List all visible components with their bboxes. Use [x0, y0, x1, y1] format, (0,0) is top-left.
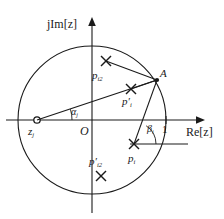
label-A: A [160, 68, 167, 79]
label-z-j: zj [28, 126, 34, 137]
figure-canvas [0, 0, 224, 219]
label-p-i2: pi2 [92, 70, 103, 81]
label-alpha-j: αj [71, 107, 78, 117]
line-A-to-p-i2 [106, 61, 157, 80]
unit-tick-label: 1 [162, 124, 168, 135]
imaginary-axis-label: jIm[z] [47, 18, 77, 30]
origin-label: O [80, 125, 89, 137]
complex-plane-figure: jIm[z] Re[z] 1 O zj A pi2 p′i p′i2 pi αj… [0, 0, 224, 219]
cross-marker-p-prime-i2 [96, 171, 106, 181]
label-p-prime-i2: p′i2 [89, 156, 102, 167]
real-axis-arrowhead [196, 116, 205, 124]
label-beta-i: βi [147, 124, 154, 134]
label-p-prime-i: p′i [122, 96, 132, 107]
imaginary-axis-arrowhead [88, 17, 96, 26]
cross-marker-p-prime-i [126, 84, 136, 94]
real-axis-label: Re[z] [186, 126, 213, 138]
cross-marker-p-i2 [101, 56, 111, 66]
label-p-i: pi [128, 153, 135, 164]
